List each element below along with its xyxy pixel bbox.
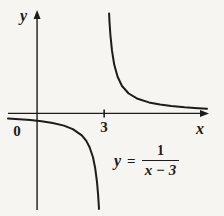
y-axis-arrow-icon	[34, 10, 41, 19]
y-axis-label: y	[20, 8, 27, 24]
origin-label: 0	[9, 124, 25, 139]
equation-equals: =	[127, 153, 136, 170]
plot-canvas	[0, 0, 224, 216]
equation-denominator: x − 3	[142, 160, 180, 179]
x-tick-label-3: 3	[97, 120, 111, 135]
x-axis-arrow-icon	[200, 110, 209, 117]
function-graph: y x 0 3 y = 1 x − 3	[0, 0, 224, 216]
equation-numerator: 1	[155, 143, 166, 160]
curve-right-branch	[109, 14, 207, 109]
equation-label: y = 1 x − 3	[114, 143, 179, 179]
equation-lhs: y	[114, 152, 121, 170]
equation-fraction: 1 x − 3	[142, 143, 180, 179]
x-axis-label: x	[196, 121, 204, 137]
